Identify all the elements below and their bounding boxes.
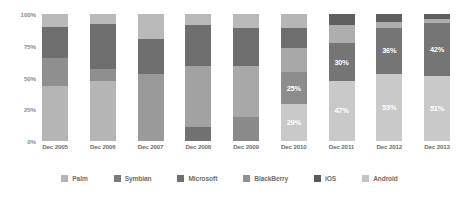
bar-segment[interactable]: [281, 28, 307, 48]
bar-column[interactable]: 30%47%: [329, 14, 355, 141]
bar-segment[interactable]: [233, 117, 259, 141]
bar-segment[interactable]: [42, 27, 68, 59]
bar-segment[interactable]: 47%: [329, 81, 355, 141]
bar-segment[interactable]: 29%: [281, 104, 307, 141]
x-axis-tick: Dec 2007: [138, 143, 164, 155]
y-axis-tick: 75%: [24, 42, 36, 49]
bar-segment[interactable]: [90, 81, 116, 141]
legend-item[interactable]: Palm: [61, 175, 87, 182]
bar-segment-label: 29%: [287, 119, 301, 126]
bar-segment[interactable]: [185, 25, 211, 66]
bar-segment[interactable]: [185, 14, 211, 25]
bar-segment[interactable]: [281, 14, 307, 28]
bar-segment[interactable]: [185, 66, 211, 127]
chart-legend: PalmSymbianMicrosoftBlackBerryiOSAndroid: [0, 170, 459, 186]
bar-column[interactable]: 25%29%: [281, 14, 307, 141]
legend-label: iOS: [325, 175, 336, 182]
y-axis-tick: 0%: [27, 138, 36, 145]
y-axis-tick: 50%: [24, 74, 36, 81]
bar-segment-label: 42%: [430, 46, 444, 53]
bar-column[interactable]: 42%51%: [424, 14, 450, 141]
bar-segment[interactable]: [281, 48, 307, 72]
legend-item[interactable]: Symbian: [114, 175, 152, 182]
plot-area: 25%29%30%47%36%53%42%51%: [42, 14, 450, 141]
legend-label: Android: [373, 175, 398, 182]
bar-segment[interactable]: [42, 14, 68, 27]
bar-segment-label: 36%: [382, 47, 396, 54]
bar-segment[interactable]: 30%: [329, 43, 355, 81]
legend-label: BlackBerry: [254, 175, 288, 182]
bar-segment[interactable]: [329, 14, 355, 25]
x-axis-tick: Dec 2005: [42, 143, 68, 155]
x-axis-tick: Dec 2013: [424, 143, 450, 155]
bar-segment[interactable]: 53%: [376, 74, 402, 141]
y-axis: 0%25%50%75%100%: [0, 14, 40, 141]
bar-segment[interactable]: [138, 14, 164, 39]
legend-swatch-icon: [314, 175, 321, 182]
legend-item[interactable]: iOS: [314, 175, 336, 182]
bar-segment-label: 25%: [287, 85, 301, 92]
x-axis-tick: Dec 2008: [185, 143, 211, 155]
legend-swatch-icon: [177, 175, 184, 182]
bar-segment-label: 30%: [334, 59, 348, 66]
bar-segment-label: 47%: [334, 107, 348, 114]
legend-label: Symbian: [125, 175, 152, 182]
bar-column[interactable]: [138, 14, 164, 141]
bar-segment[interactable]: [42, 86, 68, 141]
x-axis-tick: Dec 2009: [233, 143, 259, 155]
bar-column[interactable]: [90, 14, 116, 141]
bar-segment[interactable]: [90, 14, 116, 24]
bar-segment[interactable]: [329, 25, 355, 43]
stacked-bar-chart: 0%25%50%75%100% 25%29%30%47%36%53%42%51%…: [0, 0, 459, 198]
x-axis-tick: Dec 2011: [329, 143, 355, 155]
bar-segment[interactable]: [42, 58, 68, 86]
y-axis-tick: 25%: [24, 106, 36, 113]
legend-swatch-icon: [114, 175, 121, 182]
legend-swatch-icon: [243, 175, 250, 182]
x-axis-tick: Dec 2010: [281, 143, 307, 155]
x-axis: Dec 2005Dec 2006Dec 2007Dec 2008Dec 2009…: [42, 143, 450, 155]
legend-item[interactable]: Android: [362, 175, 398, 182]
bar-segment[interactable]: 36%: [376, 28, 402, 74]
legend-item[interactable]: BlackBerry: [243, 175, 288, 182]
bar-column[interactable]: [233, 14, 259, 141]
bar-segment[interactable]: [138, 39, 164, 73]
y-axis-tick: 100%: [21, 11, 36, 18]
bar-group: 25%29%30%47%36%53%42%51%: [42, 14, 450, 141]
bar-column[interactable]: [185, 14, 211, 141]
bar-segment[interactable]: [376, 14, 402, 22]
bar-segment[interactable]: [185, 127, 211, 141]
bar-segment-label: 51%: [430, 105, 444, 112]
x-axis-tick: Dec 2006: [90, 143, 116, 155]
x-axis-tick: Dec 2012: [376, 143, 402, 155]
legend-label: Microsoft: [188, 175, 217, 182]
legend-label: Palm: [72, 175, 87, 182]
bar-segment[interactable]: [90, 69, 116, 82]
bar-segment[interactable]: [233, 14, 259, 28]
bar-segment[interactable]: [233, 66, 259, 117]
legend-swatch-icon: [61, 175, 68, 182]
legend-swatch-icon: [362, 175, 369, 182]
bar-column[interactable]: [42, 14, 68, 141]
bar-segment[interactable]: [233, 28, 259, 66]
bar-segment[interactable]: 25%: [281, 72, 307, 104]
bar-column[interactable]: 36%53%: [376, 14, 402, 141]
bar-segment[interactable]: 42%: [424, 23, 450, 76]
bar-segment-label: 53%: [382, 104, 396, 111]
legend-item[interactable]: Microsoft: [177, 175, 217, 182]
bar-segment[interactable]: 51%: [424, 76, 450, 141]
bar-segment[interactable]: [90, 24, 116, 68]
bar-segment[interactable]: [138, 74, 164, 141]
